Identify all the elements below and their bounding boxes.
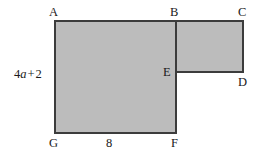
side-length-label-left: 4a+2 — [14, 68, 42, 81]
vertex-label-f: F — [171, 137, 178, 150]
constant-text: 2 — [36, 67, 42, 81]
vertex-label-e: E — [163, 66, 171, 79]
vertex-label-b: B — [170, 6, 179, 19]
operator-text: + — [27, 67, 36, 81]
side-length-label-bottom: 8 — [106, 137, 112, 150]
vertex-label-g: G — [49, 137, 58, 150]
vertex-label-d: D — [238, 76, 247, 89]
composite-shape-outline — [55, 21, 243, 133]
diagram-canvas: A B C D E F G 4a+2 8 — [0, 0, 272, 158]
vertex-label-c: C — [238, 6, 247, 19]
vertex-label-a: A — [49, 6, 58, 19]
variable-text: a — [20, 67, 26, 81]
